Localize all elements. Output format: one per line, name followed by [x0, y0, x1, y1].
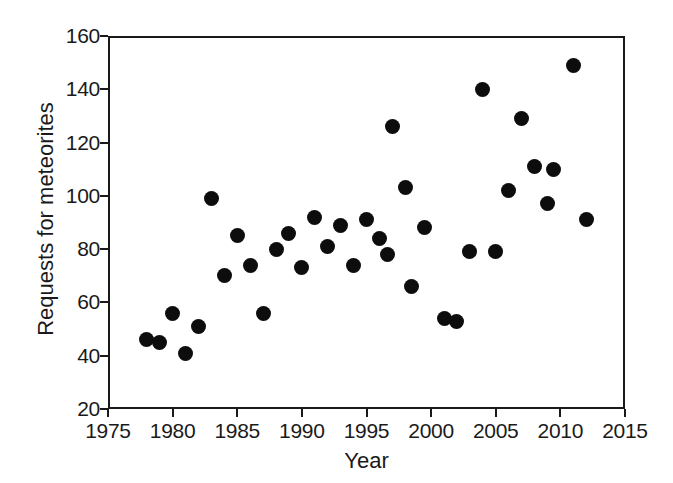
x-axis-tick-mark [430, 409, 432, 417]
y-axis-tick-label: 160 [40, 25, 100, 46]
x-axis-tick-mark [366, 409, 368, 417]
x-axis-tick-mark [495, 409, 497, 417]
y-axis-tick-mark [100, 35, 108, 37]
y-axis-title: Requests for meteorites [34, 69, 58, 369]
y-axis-tick-mark [100, 355, 108, 357]
x-axis-tick-mark [301, 409, 303, 417]
y-axis-tick-mark [100, 301, 108, 303]
x-axis-tick-mark [624, 409, 626, 417]
y-axis-tick-marks [100, 0, 112, 483]
plot-frame [108, 36, 625, 409]
y-axis-tick-mark [100, 88, 108, 90]
x-axis-tick-mark [172, 409, 174, 417]
x-axis-tick-mark [236, 409, 238, 417]
x-axis-title: Year [108, 449, 625, 473]
y-axis-tick-mark [100, 142, 108, 144]
x-axis-tick-label: 2015 [585, 419, 665, 443]
y-axis-tick-mark [100, 248, 108, 250]
x-axis-tick-mark [559, 409, 561, 417]
x-axis-tick-mark [107, 409, 109, 417]
y-axis-tick-mark [100, 195, 108, 197]
y-axis-tick-label: 20 [40, 398, 100, 419]
scatter-plot-figure: 20406080100120140160 1975198019851990199… [0, 0, 673, 483]
